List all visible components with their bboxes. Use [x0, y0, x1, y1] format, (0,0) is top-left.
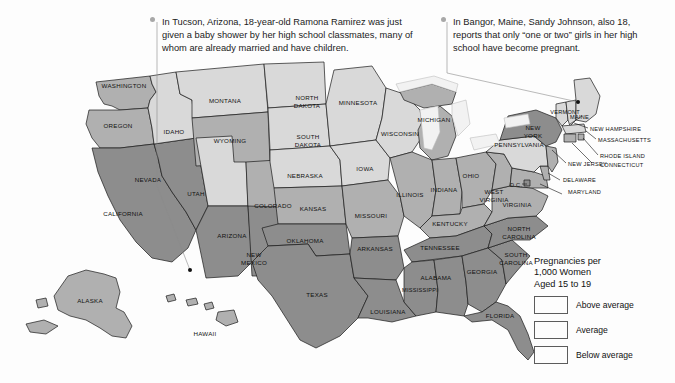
label-nebraska: NEBRASKA — [287, 172, 323, 179]
label-indiana: INDIANA — [431, 186, 458, 193]
leader-connecticut — [572, 143, 592, 163]
legend-swatch-below-average — [534, 346, 568, 364]
label-colorado: COLORADO — [254, 202, 291, 209]
state-missouri[interactable] — [342, 180, 404, 238]
state-massachusetts[interactable] — [562, 124, 586, 134]
legend: Pregnancies per 1,000 Women Aged 15 to 1… — [534, 256, 672, 371]
label-maine: MAINE — [570, 114, 589, 120]
label-ohio: OHIO — [463, 172, 480, 179]
label-north-dakota: NORTH — [295, 94, 318, 101]
state-minnesota[interactable] — [326, 66, 386, 146]
annotation-tucson-text: In Tucson, Arizona, 18-year-old Ramona R… — [152, 16, 422, 56]
label-mississippi: MISSISSIPPI — [402, 287, 438, 293]
leader-massachusetts — [586, 131, 596, 139]
legend-swatch-above-average — [534, 296, 568, 314]
label-west-virginia: WEST — [485, 188, 504, 195]
state-alabama[interactable] — [434, 256, 468, 316]
label-arkansas: ARKANSAS — [357, 245, 393, 252]
legend-title-line1: Pregnancies per — [534, 256, 672, 267]
label-louisiana: LOUISIANA — [370, 308, 406, 315]
label-idaho: IDAHO — [164, 128, 185, 135]
label-delaware: DELAWARE — [563, 177, 596, 183]
map-figure: WASHINGTON OREGON IDAHO MONTANA WYOMING … — [0, 0, 675, 383]
state-alaska[interactable] — [26, 270, 132, 338]
label-south-dakota-2: DAKOTA — [295, 141, 322, 148]
label-missouri: MISSOURI — [355, 212, 388, 219]
label-south-carolina: SOUTH — [505, 251, 528, 258]
label-kansas: KANSAS — [300, 205, 327, 212]
label-california: CALIFORNIA — [103, 210, 143, 217]
legend-item-average[interactable]: Average — [534, 321, 672, 339]
label-oklahoma: OKLAHOMA — [286, 237, 324, 244]
label-massachusetts: MASSACHUSETTS — [598, 137, 651, 143]
legend-label-above-average: Above average — [576, 300, 634, 310]
label-tennessee: TENNESSEE — [420, 244, 460, 251]
state-dc[interactable] — [524, 180, 530, 186]
legend-title-line2: 1,000 Women — [534, 267, 672, 278]
label-florida: FLORIDA — [486, 312, 515, 319]
label-wisconsin: WISCONSIN — [381, 130, 419, 137]
annotation-bangor-dot — [441, 17, 446, 22]
label-new-hampshire: NEW HAMPSHIRE — [590, 126, 641, 132]
label-michigan: MICHIGAN — [418, 116, 451, 123]
annotation-bangor: In Bangor, Maine, Sandy Johnson, also 18… — [443, 16, 658, 56]
marker-bangor — [576, 100, 580, 104]
label-new-mexico: NEW — [246, 251, 261, 258]
legend-label-below-average: Below average — [576, 350, 633, 360]
label-alabama: ALABAMA — [421, 274, 453, 281]
label-wyoming: WYOMING — [214, 137, 247, 144]
label-south-dakota: SOUTH — [297, 133, 320, 140]
label-dc: D.C. — [510, 182, 522, 188]
label-texas: TEXAS — [306, 291, 328, 298]
legend-title: Pregnancies per 1,000 Women Aged 15 to 1… — [534, 256, 672, 290]
state-rhode-island[interactable] — [578, 134, 584, 140]
label-kentucky: KENTUCKY — [432, 220, 468, 227]
label-rhode-island: RHODE ISLAND — [600, 153, 645, 159]
label-new-york-2: YORK — [524, 132, 543, 139]
label-new-york: NEW — [525, 124, 540, 131]
label-arizona: ARIZONA — [217, 232, 247, 239]
state-nebraska[interactable] — [270, 146, 342, 188]
label-north-carolina: NORTH — [507, 225, 530, 232]
label-connecticut: CONNECTICUT — [600, 162, 644, 168]
legend-title-line3: Aged 15 to 19 — [534, 279, 672, 290]
label-washington: WASHINGTON — [102, 82, 147, 89]
label-utah: UTAH — [187, 190, 204, 197]
legend-label-average: Average — [576, 325, 608, 335]
label-illinois: ILLINOIS — [396, 191, 423, 198]
label-new-mexico-2: MEXICO — [241, 259, 267, 266]
label-montana: MONTANA — [209, 97, 242, 104]
label-minnesota: MINNESOTA — [339, 99, 378, 106]
state-florida[interactable] — [464, 302, 534, 360]
label-georgia: GEORGIA — [467, 268, 498, 275]
legend-item-above-average[interactable]: Above average — [534, 296, 672, 314]
state-arizona[interactable] — [196, 206, 252, 278]
annotation-bangor-text: In Bangor, Maine, Sandy Johnson, also 18… — [443, 16, 658, 56]
state-arkansas[interactable] — [350, 236, 404, 280]
label-north-carolina-2: CAROLINA — [502, 233, 536, 240]
label-pennsylvania: PENNSYLVANIA — [494, 141, 544, 148]
label-west-virginia-2: VIRGINIA — [479, 196, 509, 203]
leader-rhode-island — [583, 138, 598, 155]
annotation-tucson-dot — [150, 17, 155, 22]
label-north-dakota-2: DAKOTA — [294, 102, 321, 109]
annotation-tucson: In Tucson, Arizona, 18-year-old Ramona R… — [152, 16, 422, 56]
label-nevada: NEVADA — [135, 176, 162, 183]
label-hawaii: HAWAII — [193, 330, 216, 337]
label-iowa: IOWA — [356, 165, 374, 172]
legend-swatch-average — [534, 321, 568, 339]
state-hawaii[interactable] — [166, 294, 238, 326]
leader-maryland — [540, 184, 562, 194]
marker-tucson — [188, 268, 192, 272]
state-connecticut[interactable] — [564, 134, 576, 142]
label-south-carolina-2: CAROLINA — [499, 259, 533, 266]
label-oregon: OREGON — [103, 122, 132, 129]
label-alaska: ALASKA — [77, 297, 103, 304]
legend-item-below-average[interactable]: Below average — [534, 346, 672, 364]
label-maryland: MARYLAND — [568, 189, 601, 195]
